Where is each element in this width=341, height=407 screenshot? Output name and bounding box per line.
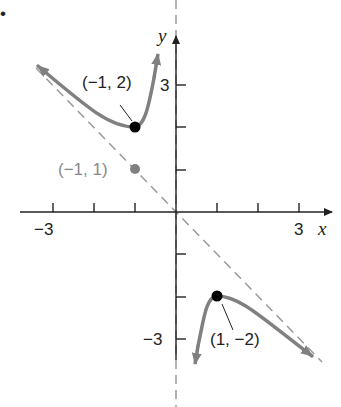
leader-local-min (120, 105, 132, 121)
x-tick-label-3: 3 (294, 220, 303, 239)
point-local-max (212, 291, 223, 302)
point-on-asymptote (130, 164, 140, 174)
oblique-asymptote (36, 68, 322, 362)
chart-canvas: (−1, 2) (−1, 1) (1, −2) −3 3 x 3 −3 y • (0, 0, 341, 407)
x-tick-label-neg3: −3 (34, 220, 53, 239)
point-local-min (130, 122, 141, 133)
y-tick-label-neg3: −3 (143, 330, 162, 349)
label-local-min: (−1, 2) (82, 73, 132, 92)
y-tick-label-3: 3 (160, 76, 169, 95)
label-local-max: (1, −2) (210, 330, 260, 349)
y-axis-label: y (156, 25, 167, 46)
bullet-marker: • (0, 4, 6, 23)
x-axis-label: x (317, 218, 327, 239)
label-asym-point: (−1, 1) (58, 160, 108, 179)
leader-local-max (222, 304, 233, 330)
